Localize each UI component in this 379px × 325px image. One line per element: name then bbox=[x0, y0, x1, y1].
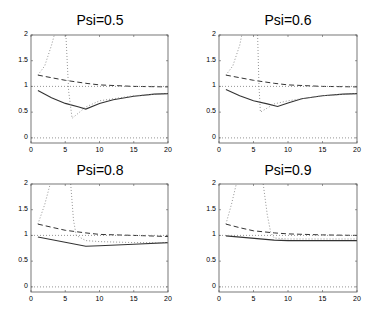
x-tick-label: 20 bbox=[162, 295, 174, 302]
y-tick-label: 2 bbox=[197, 179, 216, 186]
series-dashed bbox=[226, 224, 357, 235]
x-tick-label: 0 bbox=[25, 295, 37, 302]
x-tick-label: 10 bbox=[94, 295, 106, 302]
y-tick-label: 0.5 bbox=[9, 256, 28, 263]
y-tick-label: 0.5 bbox=[197, 107, 216, 114]
axes-box bbox=[31, 184, 168, 292]
series-solid bbox=[226, 90, 357, 107]
x-tick-label: 0 bbox=[213, 295, 225, 302]
x-tick-label: 20 bbox=[351, 295, 363, 302]
series-dotted-upper bbox=[226, 184, 236, 224]
series-solid bbox=[38, 91, 168, 110]
subplot-0 bbox=[31, 35, 168, 143]
x-tick-label: 15 bbox=[317, 295, 329, 302]
axes-box bbox=[219, 35, 357, 143]
chart-grid bbox=[0, 0, 379, 325]
x-tick-label: 15 bbox=[128, 295, 140, 302]
y-tick-label: 0 bbox=[9, 133, 28, 140]
y-tick-label: 2 bbox=[197, 30, 216, 37]
x-tick-label: 15 bbox=[317, 146, 329, 153]
y-tick-label: 1.5 bbox=[197, 56, 216, 63]
y-tick-label: 2 bbox=[9, 30, 28, 37]
x-tick-label: 5 bbox=[59, 295, 71, 302]
y-tick-label: 1.5 bbox=[197, 205, 216, 212]
axes-box bbox=[31, 35, 168, 143]
y-tick-label: 0.5 bbox=[9, 107, 28, 114]
subplot-2 bbox=[31, 184, 168, 292]
axes-box bbox=[219, 184, 357, 292]
series-dotted-upper bbox=[38, 184, 50, 224]
x-tick-label: 5 bbox=[59, 146, 71, 153]
x-tick-label: 5 bbox=[248, 295, 260, 302]
subplot-1 bbox=[219, 35, 357, 143]
y-tick-label: 0 bbox=[197, 133, 216, 140]
series-dotted-lower bbox=[71, 184, 168, 243]
series-dotted-lower bbox=[258, 35, 357, 112]
x-tick-label: 10 bbox=[282, 146, 294, 153]
series-dashed bbox=[226, 75, 357, 87]
x-tick-label: 0 bbox=[25, 146, 37, 153]
series-dashed bbox=[38, 224, 168, 236]
x-tick-label: 10 bbox=[282, 295, 294, 302]
series-dotted-lower bbox=[263, 184, 357, 239]
series-solid bbox=[38, 237, 168, 246]
y-tick-label: 1 bbox=[9, 81, 28, 88]
subplot-3 bbox=[219, 184, 357, 292]
series-dotted-upper bbox=[38, 35, 54, 75]
y-tick-label: 0 bbox=[197, 282, 216, 289]
series-dotted-lower bbox=[66, 35, 168, 118]
y-tick-label: 0 bbox=[9, 282, 28, 289]
y-tick-label: 1 bbox=[197, 81, 216, 88]
y-tick-label: 1.5 bbox=[9, 205, 28, 212]
y-tick-label: 1.5 bbox=[9, 56, 28, 63]
y-tick-label: 0.5 bbox=[197, 256, 216, 263]
x-tick-label: 0 bbox=[213, 146, 225, 153]
y-tick-label: 1 bbox=[197, 230, 216, 237]
x-tick-label: 5 bbox=[248, 146, 260, 153]
x-tick-label: 20 bbox=[351, 146, 363, 153]
series-dashed bbox=[38, 75, 168, 87]
x-tick-label: 15 bbox=[128, 146, 140, 153]
x-tick-label: 20 bbox=[162, 146, 174, 153]
y-tick-label: 1 bbox=[9, 230, 28, 237]
series-dotted-upper bbox=[226, 35, 242, 75]
y-tick-label: 2 bbox=[9, 179, 28, 186]
x-tick-label: 10 bbox=[94, 146, 106, 153]
series-solid bbox=[226, 236, 357, 241]
